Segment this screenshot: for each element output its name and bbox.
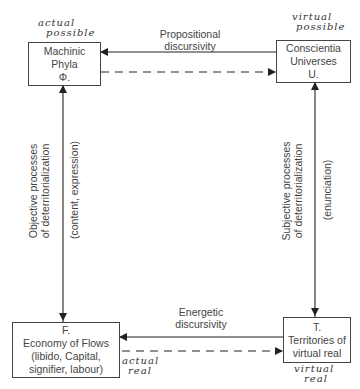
- annotation-u: virtual possible: [292, 12, 345, 32]
- annotation-phi-2: possible: [46, 28, 95, 38]
- edge-bottom-label-1: Energetic: [166, 306, 236, 318]
- edge-right-label-1: Subjective processes: [280, 131, 292, 251]
- edge-right-sublabel: (enunciation): [321, 155, 333, 225]
- edge-bottom-label: Energetic discursivity: [166, 306, 236, 330]
- node-phi-line-2: Phyla: [29, 58, 100, 71]
- edge-left-label-1: Objective processes: [27, 131, 39, 251]
- edge-left-label-2: of deterritorialization: [39, 131, 51, 251]
- edge-left-label: Objective processes of deterritorializat…: [27, 131, 53, 251]
- node-t-line-2: Territories of: [284, 334, 350, 347]
- node-territories: T. Territories of virtual real: [283, 317, 351, 363]
- annotation-f-2: real: [128, 366, 159, 376]
- node-f-line-1: F.: [13, 324, 119, 337]
- edge-right-label-2: of deterritorialization: [292, 131, 304, 251]
- annotation-f: actual real: [122, 356, 159, 376]
- edge-top-label: Propositional discursivity: [150, 28, 230, 52]
- node-u-line-3: U.: [277, 68, 350, 81]
- annotation-t-2: real: [304, 374, 334, 384]
- annotation-phi: actual possible: [38, 18, 95, 38]
- annotation-u-2: possible: [296, 22, 345, 32]
- node-phi-line-1: Machinic: [29, 45, 100, 58]
- node-f-line-3: (libido, Capital,: [13, 350, 119, 363]
- node-t-line-3: virtual real: [284, 347, 350, 360]
- edge-top-label-2: discursivity: [150, 40, 230, 52]
- node-t-line-1: T.: [284, 321, 350, 334]
- edge-top-label-1: Propositional: [150, 28, 230, 40]
- node-conscientia-universes: Conscientia Universes U.: [276, 40, 351, 83]
- annotation-t: virtual real: [294, 364, 334, 384]
- node-phi-line-3: Φ.: [29, 71, 100, 84]
- node-f-line-2: Economy of Flows: [13, 337, 119, 350]
- edge-bottom-label-2: discursivity: [166, 318, 236, 330]
- node-u-line-1: Conscientia: [277, 42, 350, 55]
- node-f-line-4: signifier, labour): [13, 363, 119, 376]
- edge-left-sublabel: (content, expression): [68, 140, 80, 240]
- edge-right-label: Subjective processes of deterritorializa…: [280, 131, 306, 251]
- node-economy-of-flows: F. Economy of Flows (libido, Capital, si…: [12, 322, 120, 378]
- node-machinic-phyla: Machinic Phyla Φ.: [28, 42, 101, 86]
- node-u-line-2: Universes: [277, 55, 350, 68]
